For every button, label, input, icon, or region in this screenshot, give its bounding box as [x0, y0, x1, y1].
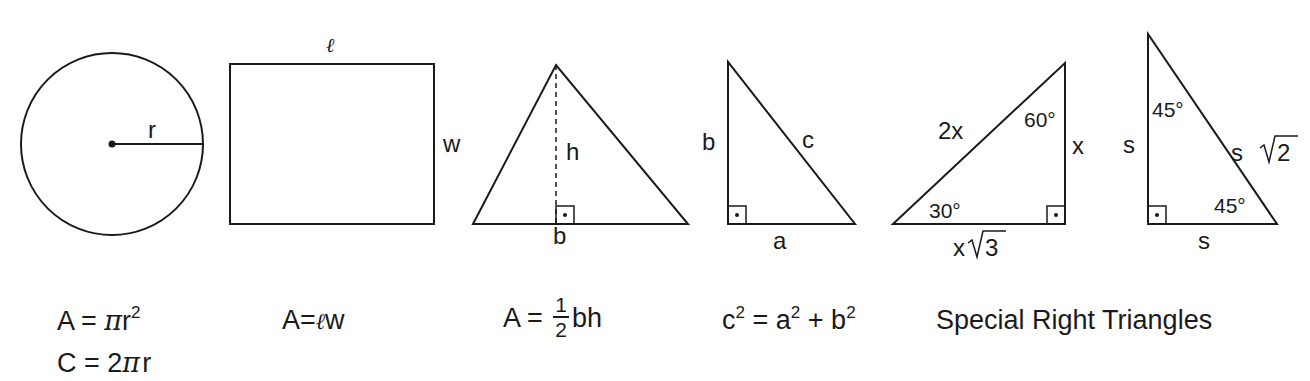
- rectangle-area-formula: A=ℓw: [282, 307, 344, 334]
- rectangle-shape: [230, 64, 434, 224]
- angle-60-label: 60°: [1024, 108, 1056, 131]
- leg-s-horizontal-label: s: [1198, 227, 1210, 254]
- pythagorean-formula: c2 = a2 + b2: [722, 307, 856, 334]
- triangle-shape: [473, 65, 688, 224]
- leg-b-label: b: [702, 128, 715, 155]
- length-label: ℓ: [326, 33, 335, 57]
- circle-circumference-formula: C = 2π r: [57, 349, 151, 377]
- circle-area-formula: A = πr2: [57, 307, 141, 335]
- leg-a-label: a: [773, 227, 787, 254]
- base-label: b: [553, 222, 566, 249]
- right-angle-dot: [735, 213, 739, 217]
- hypotenuse-c-label: c: [802, 126, 814, 153]
- one-half-fraction: 12: [553, 294, 569, 342]
- right-angle-dot: [1155, 213, 1159, 217]
- right-triangle-shape: [728, 62, 855, 224]
- special-right-triangles-caption: Special Right Triangles: [936, 307, 1212, 334]
- triangle-area-formula: A = 12bh: [503, 296, 602, 344]
- short-leg-x-label: x: [1072, 132, 1084, 159]
- right-angle-dot: [563, 213, 567, 217]
- long-leg-prefix: x: [953, 234, 965, 261]
- triangle-45-45-90-shape: [1148, 34, 1277, 224]
- leg-s-vertical-label: s: [1123, 131, 1135, 158]
- angle-30-label: 30°: [929, 199, 961, 222]
- right-angle-dot: [1054, 213, 1058, 217]
- angle-45-bottom-label: 45°: [1214, 194, 1246, 217]
- hypotenuse-prefix: s: [1231, 139, 1243, 166]
- angle-45-top-label: 45°: [1152, 98, 1184, 121]
- width-label: w: [442, 130, 461, 157]
- hypotenuse-radicand: 2: [1277, 139, 1290, 166]
- long-leg-radicand: 3: [985, 234, 998, 261]
- radius-label: r: [148, 116, 156, 143]
- height-label: h: [566, 138, 579, 165]
- center-dot: [109, 141, 116, 148]
- hypotenuse-2x-label: 2x: [938, 117, 963, 144]
- triangle-30-60-90-shape: [893, 63, 1065, 224]
